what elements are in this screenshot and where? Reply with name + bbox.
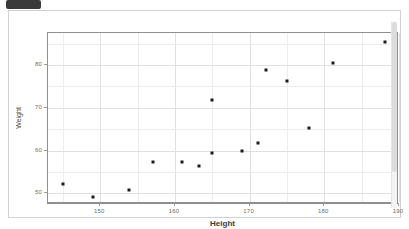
- x-tick-label: 190: [393, 208, 404, 214]
- gridline-vertical: [287, 33, 288, 202]
- gridline-vertical: [362, 33, 363, 202]
- data-point: [211, 99, 214, 102]
- gridline-vertical: [250, 33, 251, 202]
- y-axis-label: Weight: [15, 107, 22, 129]
- data-point: [332, 62, 335, 65]
- gridline-horizontal: [48, 108, 397, 109]
- gridline-vertical: [399, 33, 400, 202]
- x-tick-mark: [174, 203, 175, 206]
- gridline-horizontal: [48, 193, 397, 194]
- data-point: [256, 142, 259, 145]
- gridline-vertical: [138, 33, 139, 202]
- y-tick-mark: [44, 64, 47, 65]
- data-point: [307, 126, 310, 129]
- gridline-vertical: [100, 33, 101, 202]
- x-tick-label: 180: [318, 208, 329, 214]
- gridline-horizontal: [48, 44, 397, 45]
- gridline-horizontal: [48, 129, 397, 130]
- data-point: [152, 161, 155, 164]
- x-tick-label: 170: [243, 208, 254, 214]
- data-point: [197, 164, 200, 167]
- y-axis-line: [47, 32, 48, 203]
- gridline-vertical: [63, 33, 64, 202]
- y-tick-label: 60: [25, 147, 42, 153]
- gridline-horizontal: [48, 86, 397, 87]
- chart-card: Weight Height 15016017018019050607080: [8, 10, 401, 218]
- data-point: [61, 183, 64, 186]
- x-tick-label: 160: [169, 208, 180, 214]
- gridline-vertical: [324, 33, 325, 202]
- data-point: [211, 152, 214, 155]
- plot-area: [47, 32, 398, 203]
- y-tick-label: 80: [25, 61, 42, 67]
- screenshot-root: Weight Height 15016017018019050607080: [0, 0, 409, 229]
- x-tick-mark: [99, 203, 100, 206]
- x-tick-label: 150: [94, 208, 105, 214]
- top-left-badge[interactable]: [6, 0, 41, 9]
- gridline-horizontal: [48, 65, 397, 66]
- data-point: [285, 79, 288, 82]
- y-tick-mark: [44, 192, 47, 193]
- data-point: [265, 69, 268, 72]
- data-point: [181, 161, 184, 164]
- gridline-horizontal: [48, 172, 397, 173]
- y-tick-mark: [44, 107, 47, 108]
- x-tick-mark: [398, 203, 399, 206]
- gridline-vertical: [175, 33, 176, 202]
- y-tick-label: 50: [25, 189, 42, 195]
- vertical-scrollbar[interactable]: [391, 22, 397, 208]
- data-point: [127, 189, 130, 192]
- gridline-horizontal: [48, 151, 397, 152]
- y-tick-label: 70: [25, 104, 42, 110]
- data-point: [383, 41, 386, 44]
- x-tick-mark: [323, 203, 324, 206]
- y-tick-mark: [44, 150, 47, 151]
- data-point: [241, 149, 244, 152]
- scrollbar-thumb[interactable]: [392, 22, 397, 172]
- data-point: [91, 196, 94, 199]
- x-tick-mark: [249, 203, 250, 206]
- x-axis-label: Height: [47, 219, 398, 228]
- gridline-vertical: [212, 33, 213, 202]
